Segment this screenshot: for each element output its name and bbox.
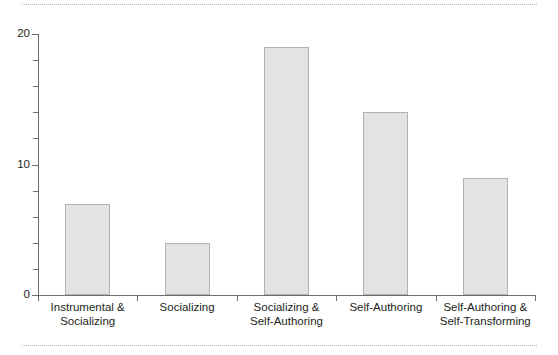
- bar-0: [65, 204, 110, 295]
- category-label-line: Instrumental &: [38, 300, 137, 314]
- bar-1: [165, 243, 210, 295]
- bar-chart-figure: 01020 Instrumental &SocializingSocializi…: [0, 0, 558, 355]
- category-label-line: Self-Authoring: [336, 300, 435, 314]
- plot-area: 01020: [38, 26, 538, 296]
- x-axis-category-label-1: Socializing: [137, 300, 236, 314]
- y-tick-major-20: [32, 34, 38, 35]
- category-label-line: Self-Authoring: [237, 314, 336, 328]
- category-label-line: Socializing &: [237, 300, 336, 314]
- y-tick-minor-16: [33, 86, 38, 87]
- bars-layer: [38, 26, 538, 296]
- x-axis-category-label-2: Socializing &Self-Authoring: [237, 300, 336, 328]
- top-dotted-rule: [22, 4, 537, 5]
- y-axis-label-20: 20: [17, 28, 30, 40]
- y-tick-major-10: [32, 165, 38, 166]
- y-tick-minor-4: [33, 243, 38, 244]
- x-axis-category-label-4: Self-Authoring &Self-Transforming: [436, 300, 535, 328]
- x-axis-labels: Instrumental &SocializingSocializingSoci…: [38, 300, 538, 340]
- x-axis-category-label-3: Self-Authoring: [336, 300, 435, 314]
- y-tick-minor-18: [33, 60, 38, 61]
- bar-4: [463, 178, 508, 295]
- bar-3: [363, 112, 408, 295]
- category-label-line: Self-Authoring &: [436, 300, 535, 314]
- y-tick-minor-8: [33, 191, 38, 192]
- y-axis-label-0: 0: [24, 289, 30, 301]
- bottom-dotted-rule: [22, 345, 537, 346]
- bar-2: [264, 47, 309, 295]
- x-axis-category-label-0: Instrumental &Socializing: [38, 300, 137, 328]
- category-label-line: Self-Transforming: [436, 314, 535, 328]
- y-axis-label-10: 10: [17, 159, 30, 171]
- category-label-line: Socializing: [38, 314, 137, 328]
- y-tick-minor-6: [33, 217, 38, 218]
- category-label-line: Socializing: [137, 300, 236, 314]
- y-tick-minor-12: [33, 138, 38, 139]
- y-tick-minor-14: [33, 112, 38, 113]
- y-tick-minor-2: [33, 269, 38, 270]
